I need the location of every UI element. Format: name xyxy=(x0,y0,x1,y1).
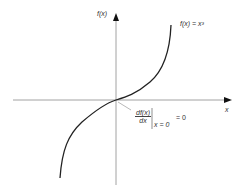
derivative-denominator: dx xyxy=(135,117,151,124)
annotation-pointer xyxy=(118,102,131,110)
derivative-numerator: df(x) xyxy=(135,109,151,117)
x-axis-arrow-icon xyxy=(224,97,232,103)
diagram-canvas xyxy=(0,0,244,192)
curve-label: f(x) = x³ xyxy=(180,20,204,27)
derivative-fraction: df(x) dx xyxy=(135,109,151,124)
equals-zero-label: = 0 xyxy=(176,114,186,121)
x-axis-label: x xyxy=(225,106,229,113)
y-axis-arrow-icon xyxy=(113,13,119,21)
evaluated-at-label: x = 0 xyxy=(154,121,169,128)
y-axis-label: f(x) xyxy=(97,10,107,17)
cubic-curve xyxy=(60,25,171,178)
